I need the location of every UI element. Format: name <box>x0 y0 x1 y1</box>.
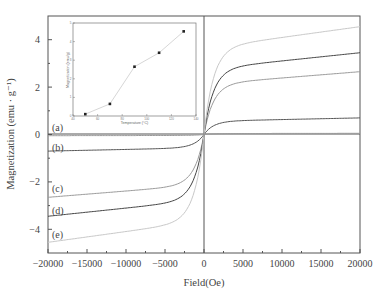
curve-label-d: (d) <box>52 205 64 217</box>
x-tick-label: 5000 <box>233 258 253 269</box>
inset-data-point <box>158 51 161 54</box>
inset-data-point <box>133 65 136 68</box>
y-tick-label: 2 <box>35 82 40 93</box>
svg-text:2: 2 <box>70 77 72 81</box>
inset-data-point <box>182 30 185 33</box>
inset-chart: 406080100120140012345 Temperature (°C) M… <box>66 21 199 125</box>
x-tick-label: −10000 <box>111 258 142 269</box>
inset-x-title: Temperature (°C) <box>121 121 149 125</box>
inset-y-title: Magnetization (emu/g) <box>66 52 70 88</box>
y-tick-label: 0 <box>35 129 40 140</box>
y-axis-ticks: 420−2−4 <box>29 34 52 235</box>
svg-text:140: 140 <box>193 117 198 121</box>
svg-text:40: 40 <box>71 117 75 121</box>
inset-data-point <box>84 113 87 116</box>
curve-label-b: (b) <box>52 142 64 154</box>
curve-label-e: (e) <box>52 229 63 241</box>
inset-data-point <box>109 103 112 106</box>
svg-text:3: 3 <box>70 58 72 62</box>
x-tick-label: 10000 <box>270 258 295 269</box>
y-tick-label: −2 <box>29 176 40 187</box>
svg-text:4: 4 <box>70 40 72 44</box>
x-axis-title: Field(Oe) <box>184 277 225 289</box>
x-axis-ticks: −20000−15000−10000−500005000100001500020… <box>33 249 373 269</box>
curve-label-c: (c) <box>52 183 63 195</box>
x-tick-label: −15000 <box>72 258 103 269</box>
curve-label-a: (a) <box>52 122 63 134</box>
svg-text:1: 1 <box>70 95 72 99</box>
y-axis-title: Magnetization (emu · g⁻¹) <box>5 78 17 190</box>
x-tick-label: 15000 <box>309 258 334 269</box>
svg-text:5: 5 <box>70 21 72 25</box>
svg-text:60: 60 <box>96 117 100 121</box>
y-tick-label: 4 <box>35 34 40 45</box>
svg-text:120: 120 <box>169 117 174 121</box>
x-tick-label: 0 <box>202 258 207 269</box>
x-tick-label: 20000 <box>348 258 373 269</box>
x-tick-label: −20000 <box>33 258 64 269</box>
x-tick-label: −5000 <box>152 258 178 269</box>
hysteresis-chart: −20000−15000−10000−500005000100001500020… <box>0 0 384 299</box>
y-tick-label: −4 <box>29 224 40 235</box>
